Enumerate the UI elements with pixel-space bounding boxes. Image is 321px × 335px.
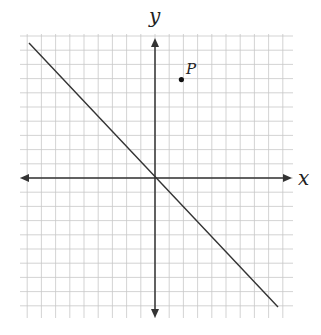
- arrow-right-icon: [283, 174, 292, 182]
- line-y-eq-neg-x: [29, 43, 278, 307]
- point-p: [179, 77, 184, 82]
- x-axis-label: x: [298, 166, 309, 190]
- point-label: P: [186, 60, 196, 78]
- arrow-down-icon: [151, 309, 159, 318]
- coordinate-plane: [0, 0, 321, 335]
- y-axis-label: y: [149, 4, 160, 28]
- arrow-up-icon: [151, 38, 159, 47]
- arrow-left-icon: [20, 174, 29, 182]
